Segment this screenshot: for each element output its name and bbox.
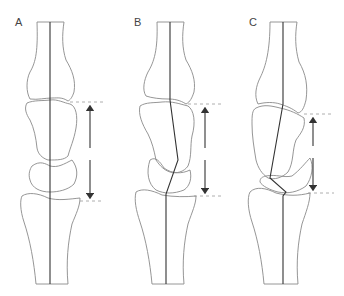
metacarpal-c [256, 22, 307, 113]
metacarpal-b [144, 22, 195, 104]
axis-line-b [166, 22, 178, 284]
capitate-b [139, 102, 194, 173]
lunate-c [260, 158, 312, 193]
panel-a [21, 22, 104, 284]
panel-b [135, 22, 222, 284]
lunate-a [29, 160, 77, 192]
axis-line-c [270, 22, 286, 284]
wrist-diagram [0, 0, 344, 296]
lunate-b [148, 159, 191, 193]
metacarpal-a [27, 22, 75, 101]
radius-c [248, 188, 310, 284]
capitate-c [252, 106, 304, 179]
panel-c [248, 22, 334, 284]
capitate-a [26, 100, 77, 160]
